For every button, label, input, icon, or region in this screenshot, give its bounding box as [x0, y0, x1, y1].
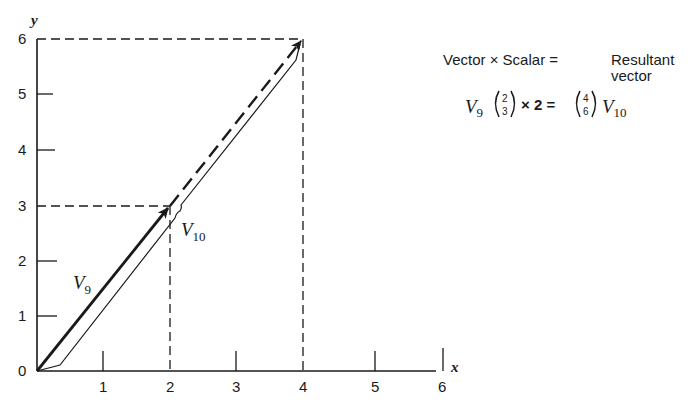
left-matrix-top: 2 — [502, 93, 508, 104]
legend-header-left: Vector × Scalar = — [443, 51, 558, 68]
eq-times-scalar: × 2 = — [521, 96, 555, 113]
x-tick-label-5: 5 — [371, 378, 379, 395]
y-tick-label-1: 1 — [18, 307, 26, 324]
y-tick-label-6: 6 — [18, 30, 26, 47]
y-axis-label: y — [29, 12, 38, 28]
left-matrix-close-paren — [511, 91, 515, 117]
y-tick-label-3: 3 — [18, 197, 26, 214]
v9-label: V9 — [73, 272, 91, 297]
right-matrix-close-paren — [592, 91, 596, 117]
right-matrix-bottom: 6 — [583, 106, 589, 117]
x-tick-label-1: 1 — [99, 378, 107, 395]
eq-v9: V9 — [465, 96, 483, 120]
right-matrix-open-paren — [577, 91, 581, 117]
vector-scalar-diagram: 0 1 2 3 4 5 6 1 2 3 4 5 6 x y V9 V1 — [0, 0, 693, 408]
origin-label: 0 — [18, 362, 26, 379]
tick-labels: 0 1 2 3 4 5 6 1 2 3 4 5 6 x y — [18, 12, 459, 395]
y-tick-label-4: 4 — [18, 141, 26, 158]
vector-labels: V9 V10 — [73, 219, 206, 297]
eq-v10: V10 — [602, 96, 627, 120]
x-tick-label-4: 4 — [299, 378, 307, 395]
legend-header-right-2: vector — [611, 67, 652, 84]
v10-dashed-arrow — [170, 41, 301, 206]
y-tick-label-2: 2 — [18, 252, 26, 269]
x-tick-label-6: 6 — [438, 378, 446, 395]
v10-label: V10 — [181, 219, 206, 244]
left-matrix-bottom: 3 — [502, 106, 508, 117]
right-matrix-top: 4 — [583, 93, 589, 104]
y-tick-label-5: 5 — [18, 85, 26, 102]
x-axis-label: x — [450, 359, 459, 375]
legend-header-right-1: Resultant — [611, 51, 675, 68]
vector-v9 — [37, 208, 168, 371]
axes — [37, 39, 443, 371]
equation-legend: Vector × Scalar = Resultant vector V9 2 … — [443, 51, 675, 120]
left-matrix-open-paren — [496, 91, 500, 117]
x-tick-label-2: 2 — [166, 378, 174, 395]
x-tick-label-3: 3 — [232, 378, 240, 395]
v9-arrow — [37, 208, 168, 371]
